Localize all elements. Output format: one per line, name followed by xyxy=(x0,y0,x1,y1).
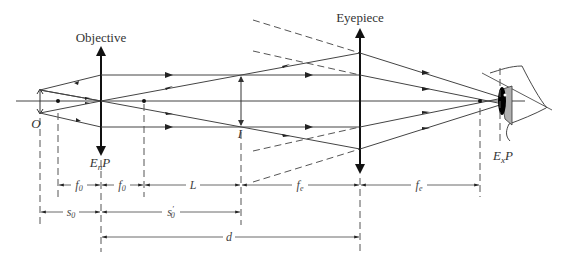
svg-text:L: L xyxy=(189,178,197,192)
microscope-ray-diagram: Objective Eyepiece O I EnP ExP f0 f0 L f… xyxy=(0,0,565,262)
eyepiece-label: Eyepiece xyxy=(336,10,384,25)
focal-point-front-objective xyxy=(56,99,60,103)
dimension-row-lens-separation: d xyxy=(102,230,359,244)
dimension-row-object-image-distances: s0 s′0 xyxy=(41,204,240,220)
eye-point xyxy=(478,99,482,103)
svg-text:d: d xyxy=(226,230,233,244)
image-label: I xyxy=(237,126,243,141)
svg-text:s′0: s′0 xyxy=(167,205,174,220)
entrance-pupil-label: EnP xyxy=(89,155,110,172)
dimension-row-focal-lengths: f0 f0 L fe fe xyxy=(59,178,479,193)
focal-point-back-objective xyxy=(142,99,146,103)
exit-pupil-label: ExP xyxy=(492,148,513,165)
eye-icon xyxy=(482,66,552,141)
object-label: O xyxy=(31,116,41,131)
objective-label: Objective xyxy=(76,30,127,45)
